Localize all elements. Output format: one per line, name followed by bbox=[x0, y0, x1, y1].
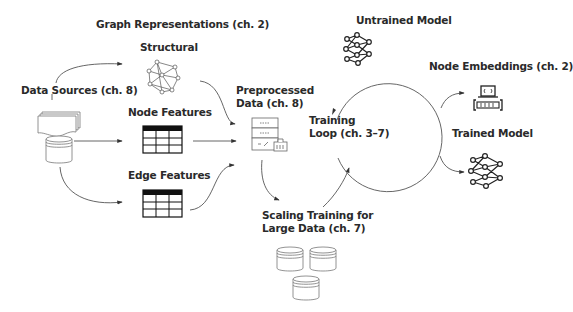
arrow-preprocessed-to-scaling bbox=[262, 160, 279, 200]
database-icon-1 bbox=[277, 247, 303, 271]
neural-network-icon-trained bbox=[469, 154, 503, 189]
server-icon bbox=[252, 118, 287, 151]
table-icon-edge-features bbox=[143, 190, 182, 217]
arrow-scaling-to-loop bbox=[323, 168, 349, 207]
database-cluster-icon bbox=[277, 247, 336, 300]
database-icon-2 bbox=[310, 247, 336, 271]
arrow-loop-to-trained bbox=[440, 156, 464, 172]
training-loop-circle bbox=[332, 84, 442, 192]
training-loop-arrowhead bbox=[333, 76, 352, 97]
database-icon-3 bbox=[293, 276, 319, 300]
database-icon bbox=[46, 136, 72, 163]
arrow-structural-to-preprocessed bbox=[200, 81, 235, 124]
arrow-edge-features-to-preprocessed bbox=[190, 165, 234, 210]
table-icon-node-features bbox=[143, 126, 182, 153]
neural-network-icon-untrained bbox=[344, 33, 372, 66]
arrow-db-to-edge-features bbox=[60, 167, 122, 203]
arrow-sources-to-structural bbox=[56, 64, 122, 83]
graph-network-icon bbox=[147, 60, 180, 94]
arrow-loop-to-embeddings bbox=[441, 93, 464, 108]
document-stack-icon bbox=[38, 112, 80, 136]
laptop-code-icon bbox=[474, 86, 502, 110]
